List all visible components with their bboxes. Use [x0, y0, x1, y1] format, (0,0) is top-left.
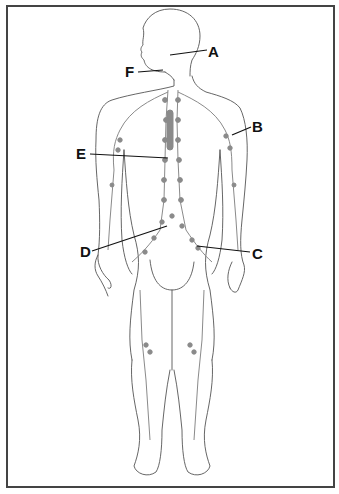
label-b: B	[252, 119, 263, 134]
label-c: C	[252, 246, 263, 261]
leader-line-c	[197, 246, 250, 252]
label-f: F	[125, 64, 134, 79]
lymph-vessels	[108, 90, 238, 440]
lymphatic-diagram: A B C D E F	[0, 0, 339, 494]
label-a: A	[208, 44, 219, 59]
leader-line-a	[170, 50, 207, 55]
leader-line-b	[232, 127, 251, 135]
label-d: D	[80, 244, 91, 259]
label-e: E	[76, 146, 86, 161]
body-illustration	[0, 0, 339, 494]
leader-line-e	[90, 154, 168, 158]
